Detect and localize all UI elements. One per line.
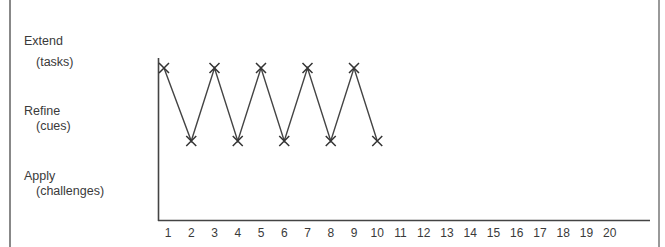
x-tick-label: 18 — [557, 226, 571, 240]
x-tick-label: 9 — [351, 226, 358, 240]
x-tick-labels: 1234567891011121314151617181920 — [165, 226, 617, 240]
x-tick-label: 13 — [440, 226, 454, 240]
x-tick-label: 8 — [327, 226, 334, 240]
x-tick-label: 4 — [234, 226, 241, 240]
x-marker-icon — [186, 136, 196, 146]
x-marker-icon — [303, 63, 313, 73]
x-tick-label: 5 — [258, 226, 265, 240]
x-marker-icon — [349, 63, 359, 73]
x-tick-label: 3 — [211, 226, 218, 240]
x-tick-label: 12 — [417, 226, 431, 240]
x-tick-label: 11 — [394, 226, 407, 240]
x-marker-icon — [256, 63, 266, 73]
x-tick-label: 16 — [510, 226, 524, 240]
x-marker-icon — [233, 136, 243, 146]
x-marker-icon — [210, 63, 220, 73]
series-markers — [159, 63, 382, 146]
x-tick-label: 10 — [371, 226, 385, 240]
x-tick-label: 7 — [304, 226, 311, 240]
x-tick-label: 1 — [165, 226, 172, 240]
x-tick-label: 6 — [281, 226, 288, 240]
x-tick-label: 20 — [603, 226, 617, 240]
x-tick-label: 19 — [580, 226, 594, 240]
x-marker-icon — [279, 136, 289, 146]
x-marker-icon — [159, 63, 169, 73]
chart-plot: 1234567891011121314151617181920 — [0, 0, 665, 247]
x-marker-icon — [326, 136, 336, 146]
x-tick-label: 14 — [464, 226, 478, 240]
x-tick-label: 2 — [188, 226, 195, 240]
x-tick-label: 17 — [533, 226, 547, 240]
series-line — [164, 68, 377, 141]
x-tick-label: 15 — [487, 226, 501, 240]
x-marker-icon — [372, 136, 382, 146]
